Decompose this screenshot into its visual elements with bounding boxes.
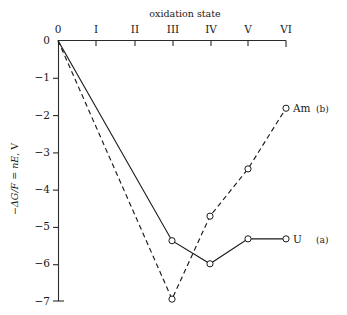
x-tick-label-1: I — [94, 23, 98, 35]
x-tick-label-0: 0 — [55, 23, 62, 35]
y-tick-label-7: −7 — [35, 295, 50, 307]
data-point-u-V — [245, 236, 251, 242]
series-label-am: Am — [292, 102, 311, 114]
series-am — [58, 41, 289, 303]
x-axis-title: oxidation state — [149, 8, 221, 19]
x-tick-label-3: III — [167, 23, 179, 35]
series-sublabel-am: (b) — [316, 104, 329, 114]
x-tick-labels: 0 I II III IV V VI — [55, 23, 292, 35]
data-point-u-III — [169, 238, 175, 244]
y-tick-label-0: 0 — [43, 34, 50, 46]
y-tick-labels: 0 −1 −2 −3 −4 −5 −6 −7 — [35, 34, 51, 307]
x-tick-label-6: VI — [279, 23, 292, 35]
x-tick-label-4: IV — [205, 23, 217, 35]
y-tick-label-4: −4 — [35, 183, 51, 195]
y-tick-label-3: −3 — [35, 146, 50, 158]
data-point-u-VI — [283, 236, 289, 242]
data-point-am-V — [245, 166, 251, 172]
chart-canvas: −ΔG/F = nE, V oxidation state 0 I II III… — [0, 0, 347, 315]
x-tick-label-2: II — [131, 23, 139, 35]
y-axis — [53, 40, 64, 301]
redox-potential-diagram: −ΔG/F = nE, V oxidation state 0 I II III… — [0, 0, 347, 315]
series-u — [58, 41, 289, 267]
series-line-am — [58, 41, 286, 300]
y-tick-label-1: −1 — [35, 71, 50, 83]
y-axis-label-text: −ΔG/F = nE, V — [9, 143, 20, 215]
series-sublabel-u: (a) — [316, 235, 328, 245]
series-labels: Am (b) U (a) — [292, 102, 329, 245]
series-label-u: U — [293, 233, 302, 245]
y-tick-label-5: −5 — [35, 220, 50, 232]
y-tick-label-2: −2 — [35, 109, 50, 121]
data-point-am-VI — [283, 105, 289, 111]
data-point-u-IV — [207, 261, 213, 267]
y-tick-label-6: −6 — [35, 257, 51, 269]
data-point-am-IV — [207, 213, 213, 219]
series-line-u — [58, 41, 286, 264]
x-tick-label-5: V — [243, 23, 252, 35]
data-point-am-III — [169, 296, 175, 302]
series-layer — [58, 41, 289, 303]
x-axis — [58, 41, 286, 48]
y-axis-label: −ΔG/F = nE, V — [9, 143, 20, 215]
